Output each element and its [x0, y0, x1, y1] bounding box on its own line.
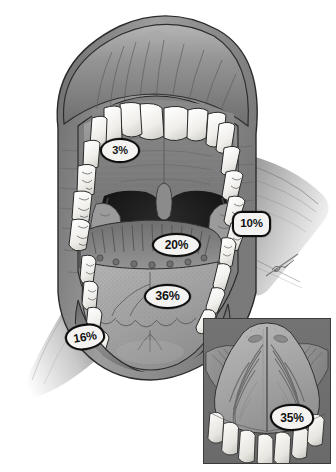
percentage-label-floor-of-mouth: 35%	[270, 404, 314, 431]
percentage-label-buccal-mucosa: 10%	[232, 211, 271, 237]
illustration-canvas: 3% 10% 20% 36% 16% 35%	[0, 0, 336, 472]
percentage-label-tongue-dorsum: 36%	[144, 284, 191, 309]
inset-panel-floor-of-mouth	[203, 318, 331, 464]
ventral-tongue-illustration	[204, 319, 330, 463]
percentage-label-hard-palate: 3%	[100, 138, 140, 163]
percentage-label-base-of-tongue: 20%	[152, 233, 201, 257]
